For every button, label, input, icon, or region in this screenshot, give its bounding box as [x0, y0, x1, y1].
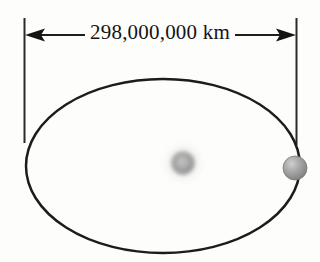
- dimension-label: 298,000,000 km: [0, 20, 320, 44]
- planet-sphere: [283, 156, 307, 180]
- dimension-label-text: 298,000,000 km: [85, 20, 235, 44]
- orbit-diagram-figure: 298,000,000 km: [0, 0, 320, 262]
